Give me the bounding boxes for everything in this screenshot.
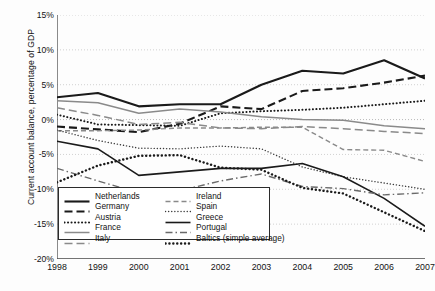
legend-item[interactable]: Baltics (simple average) (165, 233, 285, 243)
legend-item[interactable]: Ireland (165, 191, 285, 201)
legend-label: Greece (196, 213, 223, 222)
y-tick-label: 10% (37, 45, 54, 55)
legend-label: Italy (95, 234, 110, 243)
legend-column-left: NetherlandsGermanyAustriaFranceItaly (64, 191, 140, 244)
series-line-austria (57, 101, 425, 126)
legend-swatch-icon (64, 213, 90, 222)
x-tick-label: 2005 (333, 262, 353, 272)
series-line-ireland (57, 127, 425, 161)
legend-swatch-icon (64, 202, 90, 211)
legend-label: Ireland (196, 192, 221, 201)
legend-item[interactable]: Netherlands (64, 191, 140, 201)
x-tick-label: 2003 (252, 262, 272, 272)
x-tick-label: 2000 (129, 262, 149, 272)
legend-column-right: IrelandSpainGreecePortugalBaltics (simpl… (165, 191, 285, 244)
legend-swatch-icon (165, 223, 191, 232)
legend-label: Netherlands (95, 192, 140, 201)
x-axis-tick-labels: 1998199920002001200220032004200520062007 (57, 262, 425, 278)
x-tick-label: 2007 (415, 262, 435, 272)
x-tick-label: 2001 (170, 262, 190, 272)
legend-item[interactable]: Italy (64, 233, 140, 243)
y-tick-label: 15% (37, 10, 54, 20)
x-tick-label: 1998 (47, 262, 67, 272)
legend-label: Spain (196, 202, 217, 211)
y-tick-label: -10% (34, 184, 54, 194)
legend-item[interactable]: Spain (165, 202, 285, 212)
y-tick-label: -15% (34, 219, 54, 229)
legend-label: Austria (95, 213, 121, 222)
x-tick-label: 2002 (211, 262, 231, 272)
legend-item[interactable]: Germany (64, 202, 140, 212)
legend-swatch-icon (165, 192, 191, 201)
series-line-spain (57, 130, 425, 189)
series-line-netherlands (57, 60, 425, 106)
y-tick-label: -5% (39, 149, 54, 159)
legend-item[interactable]: Austria (64, 212, 140, 222)
legend-item[interactable]: Portugal (165, 223, 285, 233)
legend-label: Germany (95, 202, 129, 211)
legend-swatch-icon (165, 202, 191, 211)
legend-swatch-icon (64, 223, 90, 232)
legend-swatch-icon (165, 234, 191, 243)
legend-label: Portugal (196, 223, 227, 232)
y-tick-label: 5% (42, 80, 54, 90)
chart-legend: NetherlandsGermanyAustriaFranceItaly Ire… (58, 187, 270, 240)
x-tick-label: 2004 (293, 262, 313, 272)
x-tick-label: 2006 (374, 262, 394, 272)
legend-item[interactable]: France (64, 223, 140, 233)
legend-label: France (95, 223, 121, 232)
x-tick-label: 1999 (88, 262, 108, 272)
legend-label: Baltics (simple average) (196, 234, 285, 243)
y-axis-tick-labels: 15%10%5%0%-5%-10%-15%-20% (0, 15, 54, 259)
figure-container: Current account balance, percentage of G… (0, 0, 435, 291)
legend-item[interactable]: Greece (165, 212, 285, 222)
legend-swatch-icon (64, 192, 90, 201)
y-tick-label: 0% (42, 115, 54, 125)
legend-swatch-icon (64, 234, 90, 243)
legend-swatch-icon (165, 213, 191, 222)
